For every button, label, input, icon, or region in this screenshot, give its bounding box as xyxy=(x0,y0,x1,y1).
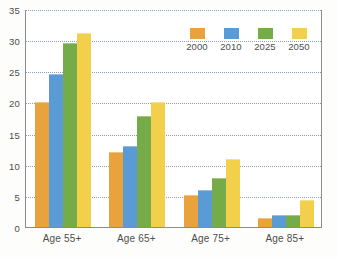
legend-item-2010: 2010 xyxy=(220,28,242,52)
y-tick-label-25: 25 xyxy=(0,67,20,78)
x-tick-label-age-65: Age 65+ xyxy=(99,233,173,244)
bar-2010-age-55 xyxy=(49,74,63,227)
bar-highlight xyxy=(300,200,314,201)
bar-2050-age-85 xyxy=(300,200,314,227)
bar-highlight xyxy=(286,215,300,216)
legend-swatch-2010 xyxy=(224,28,239,39)
legend-swatch-2000 xyxy=(190,28,205,39)
legend-item-2025: 2025 xyxy=(254,28,276,52)
legend-label-2050: 2050 xyxy=(288,41,310,52)
bar-chart: 05101520253035 Age 55+Age 65+Age 75+Age … xyxy=(0,0,338,257)
bar-highlight xyxy=(49,74,63,75)
y-tick-label-15: 15 xyxy=(0,129,20,140)
bar-2025-age-65 xyxy=(137,116,151,227)
bar-highlight xyxy=(272,215,286,216)
bar-highlight xyxy=(151,102,165,103)
bar-highlight xyxy=(198,190,212,191)
bar-2010-age-85 xyxy=(272,215,286,227)
bar-highlight xyxy=(35,102,49,103)
bar-highlight xyxy=(137,116,151,117)
bar-2025-age-75 xyxy=(212,178,226,227)
bar-highlight xyxy=(63,43,77,44)
y-tick-label-20: 20 xyxy=(0,98,20,109)
bar-group-age-65 xyxy=(109,10,165,227)
legend-item-2000: 2000 xyxy=(186,28,208,52)
y-tick-label-10: 10 xyxy=(0,160,20,171)
legend-swatch-2025 xyxy=(258,28,273,39)
bar-2000-age-75 xyxy=(184,195,198,227)
y-tick-label-30: 30 xyxy=(0,36,20,47)
x-tick-label-age-55: Age 55+ xyxy=(25,233,99,244)
bar-2050-age-65 xyxy=(151,102,165,227)
legend-label-2025: 2025 xyxy=(254,41,276,52)
bar-2000-age-85 xyxy=(258,218,272,227)
x-tick-label-age-75: Age 75+ xyxy=(174,233,248,244)
bar-2025-age-85 xyxy=(286,215,300,227)
bar-2000-age-55 xyxy=(35,102,49,227)
legend-swatch-2050 xyxy=(292,28,307,39)
bar-highlight xyxy=(109,152,123,153)
y-tick-label-5: 5 xyxy=(0,191,20,202)
bar-2050-age-55 xyxy=(77,33,91,227)
bar-highlight xyxy=(184,195,198,196)
bar-2025-age-55 xyxy=(63,43,77,227)
bar-highlight xyxy=(212,178,226,179)
bar-highlight xyxy=(226,159,240,160)
legend-item-2050: 2050 xyxy=(288,28,310,52)
legend-label-2010: 2010 xyxy=(220,41,242,52)
bar-2050-age-75 xyxy=(226,159,240,228)
x-tick-label-age-85: Age 85+ xyxy=(248,233,322,244)
y-tick-label-0: 0 xyxy=(0,223,20,234)
bar-2010-age-65 xyxy=(123,146,137,227)
legend-label-2000: 2000 xyxy=(186,41,208,52)
bar-highlight xyxy=(123,146,137,147)
bar-2010-age-75 xyxy=(198,190,212,227)
bar-highlight xyxy=(258,218,272,219)
bar-highlight xyxy=(77,33,91,34)
bar-2000-age-65 xyxy=(109,152,123,227)
bar-group-age-55 xyxy=(35,10,91,227)
legend: 2000201020252050 xyxy=(186,28,310,52)
y-tick-label-35: 35 xyxy=(0,5,20,16)
